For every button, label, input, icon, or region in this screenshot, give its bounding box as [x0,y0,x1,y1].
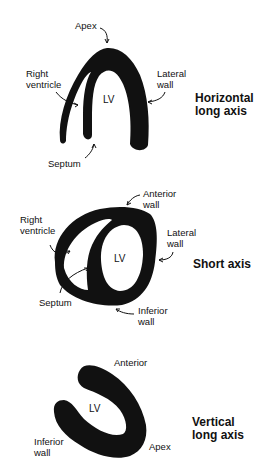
title-short-axis: Short axis [193,258,251,271]
lv-label-3: LV [89,403,101,414]
lv-label-2: LV [114,253,126,264]
label-lateral-wall-1: Lateral wall [157,68,186,90]
label-apex-3: Apex [149,441,171,452]
short-axis-shape [55,207,157,306]
label-apex-1: Apex [75,20,97,31]
label-septum-1: Septum [48,158,81,169]
title-vertical-long-axis: Vertical long axis [192,416,244,442]
label-septum-2: Septum [39,297,72,308]
lv-label-1: LV [103,94,115,105]
label-right-ventricle-1: Right ventricle [26,68,61,90]
label-right-ventricle-2: Right ventricle [20,214,55,236]
label-lateral-wall-2: Lateral wall [167,227,196,249]
label-anterior-3: Anterior [114,357,147,368]
label-anterior-wall: Anterior wall [143,188,176,210]
label-inferior-wall-2: Inferior wall [138,305,168,327]
title-horizontal-long-axis: Horizontal long axis [195,92,254,118]
label-inferior-wall-3: Inferior wall [34,436,64,458]
